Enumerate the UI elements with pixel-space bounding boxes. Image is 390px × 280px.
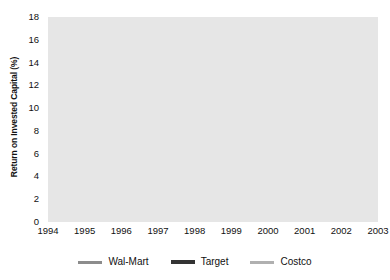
legend-line-icon bbox=[250, 261, 274, 264]
x-tick-label: 2002 bbox=[331, 226, 352, 236]
y-tick-label: 4 bbox=[34, 172, 39, 182]
legend-line-icon bbox=[171, 260, 195, 264]
chart-legend: Wal-MartTargetCostco bbox=[0, 252, 390, 272]
y-tick-label: 8 bbox=[34, 126, 39, 136]
y-tick-label: 18 bbox=[28, 12, 39, 22]
legend-item[interactable]: Target bbox=[171, 257, 229, 267]
chart-container: Return on Invested Capital (%) 024681012… bbox=[0, 0, 390, 280]
y-tick-label: 14 bbox=[28, 58, 39, 68]
plot-area bbox=[48, 17, 378, 222]
y-tick-label: 16 bbox=[28, 35, 39, 45]
legend-label: Target bbox=[201, 257, 229, 267]
y-tick-label: 2 bbox=[34, 194, 39, 204]
x-axis-tick-labels: 1994199519961997199819992000200120022003 bbox=[48, 226, 378, 240]
x-tick-label: 2001 bbox=[294, 226, 315, 236]
legend-item[interactable]: Wal-Mart bbox=[78, 257, 148, 267]
x-tick-label: 1998 bbox=[184, 226, 205, 236]
y-tick-label: 12 bbox=[28, 81, 39, 91]
y-axis-tick-labels: 024681012141618 bbox=[0, 17, 44, 222]
legend-label: Wal-Mart bbox=[108, 257, 148, 267]
x-tick-label: 1995 bbox=[74, 226, 95, 236]
x-tick-label: 1997 bbox=[147, 226, 168, 236]
x-tick-label: 1996 bbox=[111, 226, 132, 236]
x-tick-label: 1994 bbox=[37, 226, 58, 236]
x-tick-label: 1999 bbox=[221, 226, 242, 236]
x-tick-label: 2000 bbox=[257, 226, 278, 236]
plot-background bbox=[48, 17, 378, 222]
x-tick-label: 2003 bbox=[367, 226, 388, 236]
y-tick-label: 10 bbox=[28, 103, 39, 113]
legend-item[interactable]: Costco bbox=[250, 257, 311, 267]
legend-label: Costco bbox=[280, 257, 311, 267]
legend-line-icon bbox=[78, 261, 102, 264]
y-tick-label: 6 bbox=[34, 149, 39, 159]
